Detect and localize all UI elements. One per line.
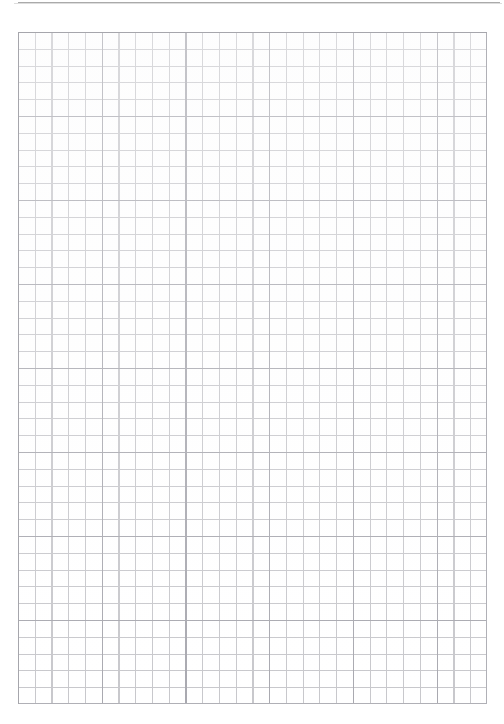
page-top-edge-soft xyxy=(14,3,502,4)
document-page xyxy=(0,0,504,724)
page-top-edge-line xyxy=(18,2,500,3)
graph-paper-grid xyxy=(18,32,487,704)
handwriting-content-area[interactable] xyxy=(18,32,487,704)
